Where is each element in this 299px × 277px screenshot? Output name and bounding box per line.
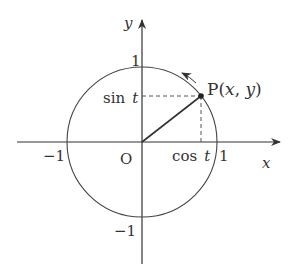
y-tick-pos-label: 1 — [131, 52, 141, 70]
rotation-arrow-icon — [182, 73, 196, 83]
point-p — [198, 93, 204, 99]
point-p-label: P(x, y) — [207, 79, 262, 99]
y-axis-label: y — [123, 14, 133, 32]
x-axis-label: x — [262, 154, 271, 172]
cos-t-label: cos t — [172, 147, 211, 165]
y-tick-neg-label: −1 — [114, 222, 136, 240]
radius-op — [142, 96, 201, 142]
origin-label: O — [120, 150, 132, 168]
x-tick-pos-label: 1 — [219, 147, 229, 165]
x-tick-neg-label: −1 — [43, 147, 65, 165]
sin-t-label: sin t — [103, 89, 139, 107]
unit-circle-diagram: y x O 1 −1 −1 1 sin t cos t P(x, y) — [0, 0, 299, 277]
